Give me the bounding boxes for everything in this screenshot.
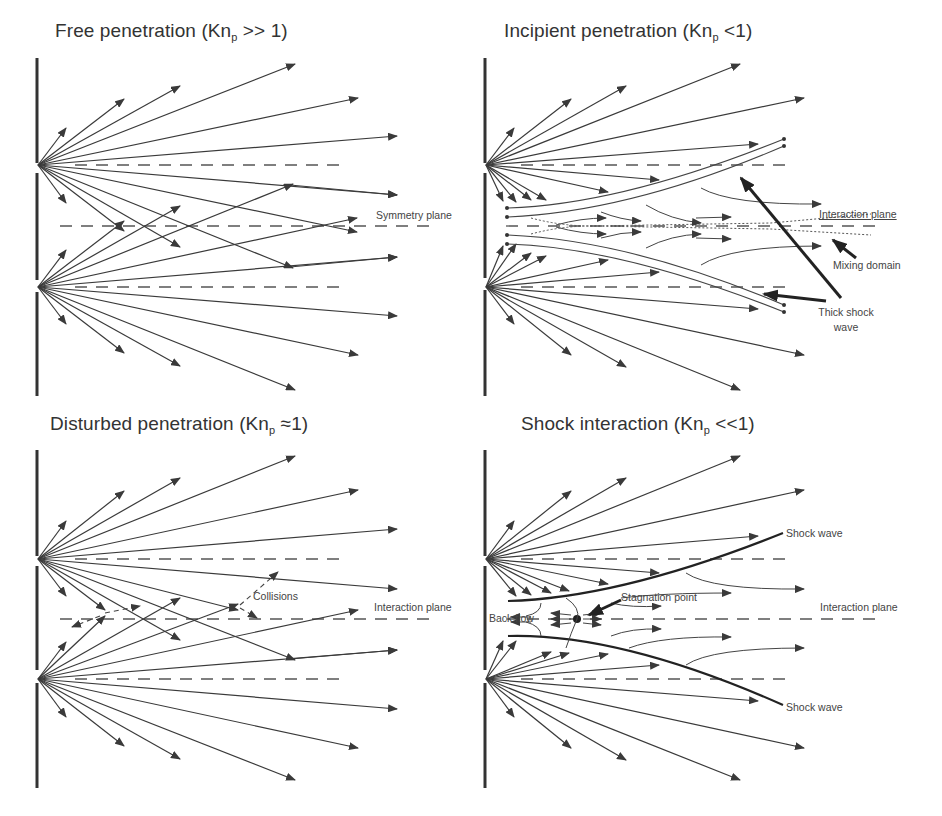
thick-shock-wave-label: Thick shock wave xyxy=(806,305,886,335)
shock-wave-lower-label: Shock wave xyxy=(786,701,843,713)
label-line-2: wave xyxy=(806,320,886,335)
collisions-label: Collisions xyxy=(253,590,298,602)
shock-wave-upper-label: Shock wave xyxy=(786,527,843,539)
rays-source-1 xyxy=(38,64,397,268)
stagnation-point-label: Stagnation point xyxy=(621,591,697,603)
back-flow-label: Back flow xyxy=(489,612,534,624)
interaction-plane-label: Interaction plane xyxy=(820,601,898,613)
interaction-plane-label: Interaction plane xyxy=(819,208,897,220)
label-line-1: Thick shock xyxy=(806,305,886,320)
incipient-penetration-diagram xyxy=(471,0,942,408)
mixing-domain-label: Mixing domain xyxy=(833,259,901,271)
symmetry-plane-label: Symmetry plane xyxy=(376,209,452,221)
panel-free-penetration: Free penetration (Knp >> 1) xyxy=(0,0,471,408)
panel-incipient-penetration: Incipient penetration (Knp <1) xyxy=(471,0,942,408)
rays-source-2 xyxy=(38,184,397,390)
panel-shock-interaction: Shock interaction (Knp <<1) xyxy=(471,408,942,816)
interaction-plane-label: Interaction plane xyxy=(374,601,452,613)
free-penetration-diagram xyxy=(0,0,471,408)
dashed-planes xyxy=(60,165,430,287)
panel-disturbed-penetration: Disturbed penetration (Knp ≈1) xyxy=(0,408,471,816)
